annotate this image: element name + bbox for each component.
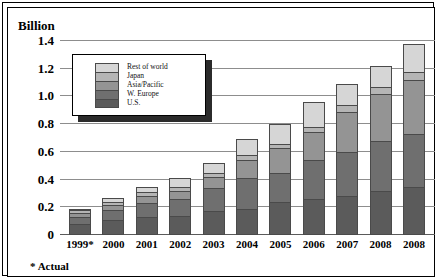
bar-segment: [169, 178, 191, 186]
bar-segment: [69, 224, 91, 235]
bar-stack: [236, 139, 258, 235]
legend-swatch: [95, 99, 119, 108]
bar-segment: [236, 139, 258, 154]
bar-segment: [370, 66, 392, 87]
bar-segment: [169, 199, 191, 216]
bar-segment: [303, 160, 325, 199]
legend-label: U.S.: [127, 98, 168, 107]
bar-stack: [136, 187, 158, 235]
legend-label: Asia/Pacific: [127, 80, 168, 89]
bar-segment: [336, 112, 358, 152]
bar-stack: [169, 178, 191, 235]
bar-stack: [102, 198, 124, 235]
legend-label: Rest of world: [127, 62, 168, 71]
legend-swatches: [95, 63, 119, 108]
legend-label: W. Europe: [127, 89, 168, 98]
chart-inner-frame: Billion 00.20.40.60.81.01.21.4 1999*2000…: [7, 7, 435, 277]
legend-swatch: [95, 90, 119, 99]
bar-segment: [336, 152, 358, 196]
bar-segment: [370, 141, 392, 191]
legend-swatch: [95, 63, 119, 72]
bar-stack: [69, 209, 91, 235]
bar-segment: [403, 134, 425, 187]
bar-segment: [303, 132, 325, 160]
bar-segment: [269, 124, 291, 143]
y-axis-title: Billion: [18, 18, 55, 34]
bar-segment: [403, 80, 425, 134]
bar-segment: [136, 196, 158, 203]
y-axis-tick-label: 0: [12, 228, 54, 241]
bar-segment: [236, 160, 258, 178]
bar-segment: [336, 105, 358, 112]
footnote: * Actual: [30, 260, 69, 272]
bar-segment: [203, 211, 225, 235]
bar-segment: [236, 209, 258, 235]
bar-segment: [136, 203, 158, 217]
bar-segment: [203, 188, 225, 212]
bar-segment: [303, 102, 325, 127]
legend-labels: Rest of worldJapanAsia/PacificW. EuropeU…: [127, 62, 168, 107]
y-axis-tick-label: 1.4: [12, 34, 54, 47]
bar-segment: [269, 148, 291, 173]
bar-segment: [102, 220, 124, 235]
bar-segment: [403, 44, 425, 72]
bar-segment: [169, 216, 191, 235]
bar-stack: [336, 84, 358, 235]
bar-segment: [403, 187, 425, 236]
bar-segment: [269, 173, 291, 202]
legend-swatch: [95, 81, 119, 90]
chart-outer-frame: Billion 00.20.40.60.81.01.21.4 1999*2000…: [2, 2, 434, 276]
y-axis-tick-label: 0.2: [12, 200, 54, 213]
bar-stack: [303, 102, 325, 235]
bar-segment: [203, 177, 225, 188]
y-axis-tick-label: 1.0: [12, 89, 54, 102]
bar-stack: [370, 66, 392, 235]
bar-segment: [303, 199, 325, 235]
legend-swatch: [95, 72, 119, 81]
bar-segment: [102, 210, 124, 220]
bar-segment: [69, 217, 91, 224]
bar-segment: [370, 191, 392, 235]
y-axis-tick-label: 0.6: [12, 145, 54, 158]
bar-segment: [236, 178, 258, 208]
bar-segment: [370, 87, 392, 94]
bar-stack: [269, 124, 291, 235]
bar-segment: [203, 163, 225, 173]
bar-segment: [336, 84, 358, 105]
chart-legend: Rest of worldJapanAsia/PacificW. EuropeU…: [72, 54, 206, 116]
bar-segment: [336, 196, 358, 235]
bar-segment: [269, 202, 291, 235]
y-axis-tick-label: 1.2: [12, 62, 54, 75]
bar-segment: [169, 191, 191, 199]
x-axis-tick-label: 2008: [394, 239, 434, 250]
y-axis-tick-label: 0.8: [12, 117, 54, 130]
y-axis-tick-label: 0.4: [12, 173, 54, 186]
bar-segment: [136, 217, 158, 235]
legend-label: Japan: [127, 71, 168, 80]
bar-segment: [370, 94, 392, 141]
bar-segment: [403, 72, 425, 80]
bar-stack: [203, 163, 225, 235]
bar-stack: [403, 44, 425, 235]
